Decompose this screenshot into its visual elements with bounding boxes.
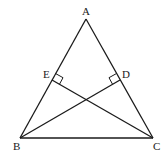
- diagram-canvas: [0, 0, 167, 158]
- label-b: B: [13, 140, 20, 152]
- segment-bd: [20, 80, 120, 138]
- segment-ce: [52, 80, 153, 138]
- label-e: E: [43, 68, 50, 80]
- side-ab: [20, 19, 86, 138]
- label-c: C: [153, 140, 160, 152]
- label-a: A: [82, 5, 90, 17]
- label-d: D: [122, 68, 130, 80]
- side-ac: [86, 19, 153, 138]
- triangle-diagram: A E D B C: [0, 0, 167, 158]
